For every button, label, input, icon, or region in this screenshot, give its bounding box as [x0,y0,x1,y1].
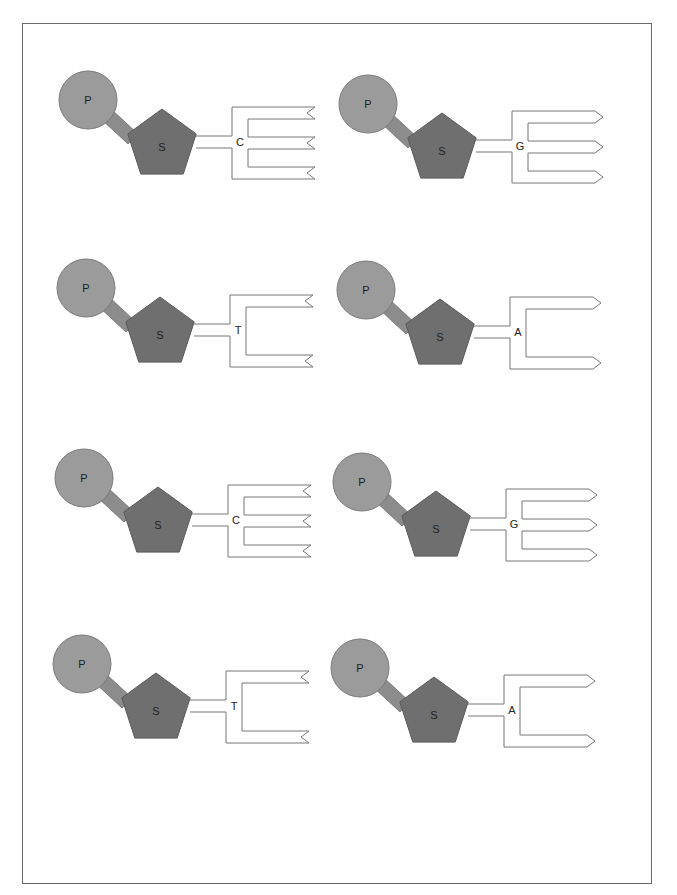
nucleotide-g: PSG [333,453,597,561]
sugar-label: S [438,145,445,157]
sugar-label: S [430,709,437,721]
nucleotide-t: PST [53,635,309,743]
base-label: G [510,518,519,530]
base-g-shape [470,489,597,561]
nucleotide-c: PSC [59,71,315,179]
base-label: C [232,514,240,526]
base-g-shape [476,111,603,183]
sugar-label: S [158,141,165,153]
sugar-label: S [156,329,163,341]
base-t-shape [194,295,313,367]
base-a-shape [468,675,595,747]
base-t-shape [190,671,309,743]
base-c-shape [196,107,315,179]
phosphate-label: P [364,98,371,110]
base-label: T [231,700,238,712]
phosphate-label: P [358,476,365,488]
base-label: A [508,704,516,716]
phosphate-label: P [80,472,87,484]
base-a-shape [474,297,601,369]
phosphate-label: P [82,282,89,294]
base-c-shape [192,485,311,557]
phosphate-label: P [362,284,369,296]
base-label: G [516,140,525,152]
nucleotide-diagram: PSCPSGPSTPSAPSCPSGPSTPSA [0,0,677,895]
nucleotide-a: PSA [337,261,601,369]
base-label: T [235,324,242,336]
nucleotide-t: PST [57,259,313,367]
phosphate-label: P [356,662,363,674]
nucleotide-g: PSG [339,75,603,183]
sugar-label: S [436,331,443,343]
sugar-label: S [432,523,439,535]
sugar-label: S [154,519,161,531]
base-label: C [236,136,244,148]
base-label: A [514,326,522,338]
nucleotide-a: PSA [331,639,595,747]
nucleotide-c: PSC [55,449,311,557]
phosphate-label: P [84,94,91,106]
phosphate-label: P [78,658,85,670]
sugar-label: S [152,705,159,717]
